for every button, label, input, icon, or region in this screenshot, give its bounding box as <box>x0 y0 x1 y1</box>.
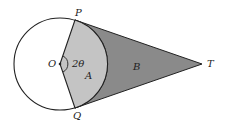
tangent-circle-diagram: P Q O T 2θ A B <box>0 0 231 130</box>
center-point <box>59 63 62 66</box>
label-region-b: B <box>132 61 140 72</box>
label-region-a: A <box>84 70 92 81</box>
label-p: P <box>74 7 82 18</box>
label-o: O <box>48 58 56 69</box>
label-t: T <box>207 58 215 69</box>
label-angle: 2θ <box>71 58 84 69</box>
label-q: Q <box>73 110 81 121</box>
diagram-svg: P Q O T 2θ A B <box>0 0 231 130</box>
